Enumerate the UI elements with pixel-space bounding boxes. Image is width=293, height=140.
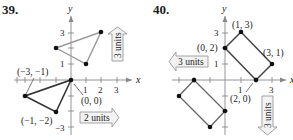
y-tick-label: 1 xyxy=(214,59,219,69)
vertex-label: (1, 3) xyxy=(232,20,253,31)
arrow-3-units-left: 3 units xyxy=(169,52,208,71)
original-triangle xyxy=(25,80,71,112)
figure-39: x y 1 2 3 3 1 −3 (−3, −1) (−1, −2) (0, 0… xyxy=(14,3,141,135)
svg-text:2 units: 2 units xyxy=(84,113,110,123)
x-axis-label: x xyxy=(135,74,141,85)
y-tick-label: −3 xyxy=(55,123,65,133)
vertex-label: (3, 1) xyxy=(263,48,284,59)
vertex-label: (0, 2) xyxy=(197,43,218,54)
svg-text:3 units: 3 units xyxy=(113,32,123,58)
diagram-canvas: x y 1 2 3 3 1 −3 (−3, −1) (−1, −2) (0, 0… xyxy=(0,0,293,140)
y-axis-label: y xyxy=(67,3,73,14)
axis-arrow-x xyxy=(126,78,132,83)
figure-40: x y 1 3 3 1 (0, 2) (1, 3) (3, 1) (2, 0) … xyxy=(169,3,293,135)
svg-text:3 units: 3 units xyxy=(178,57,204,67)
translated-rectangle xyxy=(179,80,225,127)
y-tick-label: 3 xyxy=(60,28,65,38)
axis-arrow-x xyxy=(280,78,286,83)
y-tick-label: 3 xyxy=(214,28,219,38)
vertex-label: (−1, −2) xyxy=(21,116,52,127)
x-tick-label: 3 xyxy=(269,85,274,95)
x-axis-label: x xyxy=(289,74,293,85)
vertex-label: (−3, −1) xyxy=(17,67,48,78)
arrow-2-units-right: 2 units xyxy=(80,108,119,127)
svg-text:3 units: 3 units xyxy=(263,102,273,128)
vertex-label: (0, 0) xyxy=(81,96,102,107)
x-tick-label: 1 xyxy=(83,85,88,95)
y-tick-label: 1 xyxy=(60,59,65,69)
x-tick-label: 3 xyxy=(114,85,119,95)
y-axis-label: y xyxy=(221,3,227,14)
x-tick-label: 2 xyxy=(98,85,103,95)
arrow-3-units-down: 3 units xyxy=(258,96,277,135)
arrow-3-units-up: 3 units xyxy=(108,27,127,61)
vertex-label: (2, 0) xyxy=(230,94,251,105)
axis-arrow-y xyxy=(69,16,74,22)
axis-arrow-y xyxy=(223,16,228,22)
